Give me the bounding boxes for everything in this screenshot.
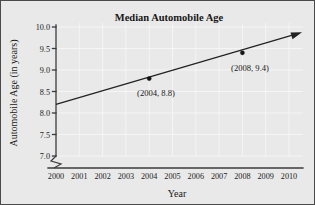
x-axis-tick-labels: 2000 2001 2002 2003 2004 2005 2006 2007 … xyxy=(48,172,297,181)
y-tick-label: 7.0 xyxy=(40,152,50,161)
x-tick-label: 2005 xyxy=(164,172,180,181)
x-tick-label: 2001 xyxy=(71,172,87,181)
x-tick-label: 2003 xyxy=(118,172,134,181)
x-tick-label: 2002 xyxy=(94,172,110,181)
y-axis-title: Automobile Age (in years) xyxy=(8,40,20,147)
chart-figure: Median Automobile Age 7.0 7.5 8.0 8.5 9.… xyxy=(0,0,315,205)
x-tick-label: 2010 xyxy=(281,172,297,181)
y-tick-label: 8.5 xyxy=(40,88,50,97)
x-tick-label: 2009 xyxy=(258,172,274,181)
y-tick-label: 9.5 xyxy=(40,45,50,54)
x-tick-label: 2007 xyxy=(211,172,227,181)
x-tick-label: 2000 xyxy=(48,172,64,181)
x-tick-label: 2006 xyxy=(188,172,204,181)
chart-title: Median Automobile Age xyxy=(115,12,224,23)
y-tick-label: 10.0 xyxy=(36,23,50,32)
data-point-marker-2004 xyxy=(147,77,151,81)
y-tick-label: 9.0 xyxy=(40,66,50,75)
x-tick-label: 2004 xyxy=(141,172,157,181)
median-automobile-age-chart: Median Automobile Age 7.0 7.5 8.0 8.5 9.… xyxy=(1,1,315,205)
annotation-2008: (2008, 9.4) xyxy=(231,63,269,73)
y-tick-label: 7.5 xyxy=(40,131,50,140)
annotation-2004: (2004, 8.8) xyxy=(137,88,175,98)
x-axis-title: Year xyxy=(168,188,187,199)
x-tick-label: 2008 xyxy=(234,172,250,181)
data-point-marker-2008 xyxy=(240,51,244,55)
y-tick-label: 8.0 xyxy=(40,109,50,118)
